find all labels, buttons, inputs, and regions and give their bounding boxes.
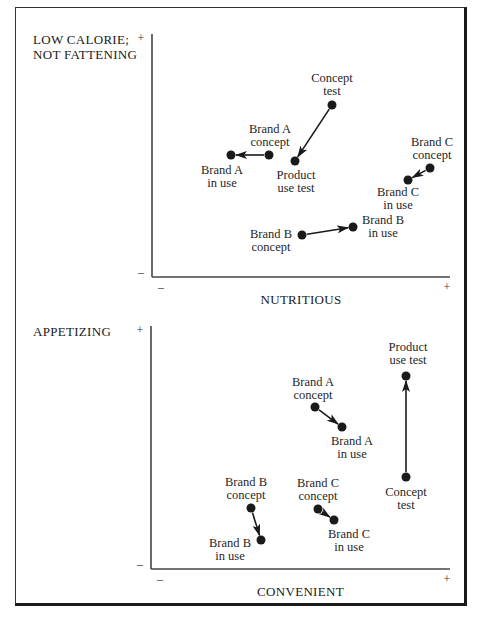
arrow xyxy=(307,228,348,234)
x-tick-plus: + xyxy=(444,280,451,294)
x-axis-label: NUTRITIOUS xyxy=(261,292,342,307)
point-label: Brand A xyxy=(249,122,291,136)
point-label: Brand C xyxy=(411,135,453,149)
arrow xyxy=(319,410,338,424)
point-brand-a-concept xyxy=(311,403,320,412)
arrow xyxy=(412,170,425,177)
point-label: use test xyxy=(277,181,315,195)
x-tick-minus: – xyxy=(156,572,164,586)
point-label: concept xyxy=(252,240,291,254)
arrow xyxy=(322,512,330,517)
point-brand-c-concept xyxy=(314,505,323,514)
perceptual-maps: +––+NUTRITIOUSLOW CALORIE;NOT FATTENINGC… xyxy=(0,0,482,617)
point-label: Product xyxy=(277,168,316,182)
point-label: in use xyxy=(368,226,398,240)
point-brand-a-concept xyxy=(265,151,274,160)
y-tick-plus: + xyxy=(137,323,144,337)
point-label: Brand B xyxy=(362,213,404,227)
point-label: Brand B xyxy=(250,227,292,241)
point-brand-b-concept xyxy=(247,504,256,513)
point-label: in use xyxy=(337,447,367,461)
y-tick-minus: – xyxy=(137,265,145,279)
point-label: concept xyxy=(299,489,338,503)
point-brand-c-in-use xyxy=(330,516,339,525)
arrow xyxy=(252,513,259,535)
chart-nutritious-vs-low-calorie: +––+NUTRITIOUSLOW CALORIE;NOT FATTENINGC… xyxy=(33,31,453,307)
point-product-use-test xyxy=(291,157,300,166)
point-label: concept xyxy=(413,148,452,162)
point-label: Brand C xyxy=(377,185,419,199)
point-brand-a-in-use xyxy=(227,151,236,160)
point-brand-c-in-use xyxy=(404,176,413,185)
y-axis-label: NOT FATTENING xyxy=(33,47,137,62)
point-label: Brand A xyxy=(201,163,243,177)
point-concept-test xyxy=(402,473,411,482)
point-label: test xyxy=(397,498,415,512)
point-label: in use xyxy=(207,176,237,190)
point-label: concept xyxy=(227,488,266,502)
point-label: in use xyxy=(334,540,364,554)
point-brand-b-in-use xyxy=(257,536,266,545)
point-brand-c-concept xyxy=(426,164,435,173)
point-label: Brand A xyxy=(292,375,334,389)
x-tick-plus: + xyxy=(444,572,451,586)
point-label: test xyxy=(323,84,341,98)
point-brand-a-in-use xyxy=(338,423,347,432)
y-axis-label: APPETIZING xyxy=(33,324,111,339)
point-label: Concept xyxy=(311,71,353,85)
point-label: Brand A xyxy=(331,434,373,448)
point-label: Brand C xyxy=(328,527,370,541)
y-tick-minus: – xyxy=(136,557,144,571)
point-concept-test xyxy=(328,101,337,110)
y-tick-plus: + xyxy=(138,31,145,45)
point-label: in use xyxy=(383,198,413,212)
point-label: Product xyxy=(389,340,428,354)
point-label: concept xyxy=(251,135,290,149)
point-brand-b-concept xyxy=(298,231,307,240)
point-product-use-test xyxy=(402,372,411,381)
point-label: Brand B xyxy=(209,536,251,550)
point-label: Concept xyxy=(385,485,427,499)
y-axis-label: LOW CALORIE; xyxy=(33,32,129,47)
x-axis-label: CONVENIENT xyxy=(257,584,344,599)
chart-convenient-vs-appetizing: +––+CONVENIENTAPPETIZINGProductuse testC… xyxy=(33,323,451,599)
x-tick-minus: – xyxy=(157,280,165,294)
arrow xyxy=(298,109,329,157)
point-label: Brand C xyxy=(297,476,339,490)
point-label: concept xyxy=(294,388,333,402)
point-brand-b-in-use xyxy=(349,223,358,232)
point-label: Brand B xyxy=(225,475,267,489)
point-label: use test xyxy=(389,353,427,367)
point-label: in use xyxy=(215,549,245,563)
